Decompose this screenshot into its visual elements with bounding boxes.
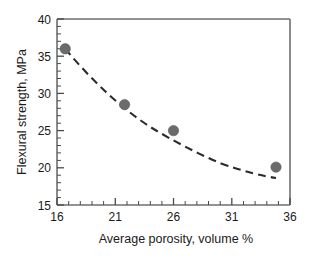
data-point: [119, 99, 129, 109]
x-tick-label: 31: [225, 210, 239, 224]
y-axis-title: Flexural strength, MPa: [15, 49, 29, 175]
flexural-strength-porosity-chart: 40 35 30 25 20 15 16 21 26 31 36 Average…: [0, 0, 309, 258]
y-tick-label: 25: [38, 124, 52, 138]
chart-figure: 40 35 30 25 20 15 16 21 26 31 36 Average…: [0, 0, 309, 258]
x-tick-label: 36: [283, 210, 297, 224]
data-point: [168, 125, 178, 135]
y-tick-label: 35: [38, 50, 52, 64]
y-tick-label: 20: [38, 161, 52, 175]
data-point: [271, 162, 281, 172]
x-axis-title: Average porosity, volume %: [99, 232, 253, 246]
y-tick-label: 15: [38, 199, 52, 213]
y-tick-label: 30: [38, 87, 52, 101]
x-tick-label: 26: [167, 210, 181, 224]
x-tick-label: 21: [109, 210, 123, 224]
x-tick-label: 16: [50, 210, 64, 224]
data-point: [60, 44, 70, 54]
y-tick-label: 40: [38, 13, 52, 27]
